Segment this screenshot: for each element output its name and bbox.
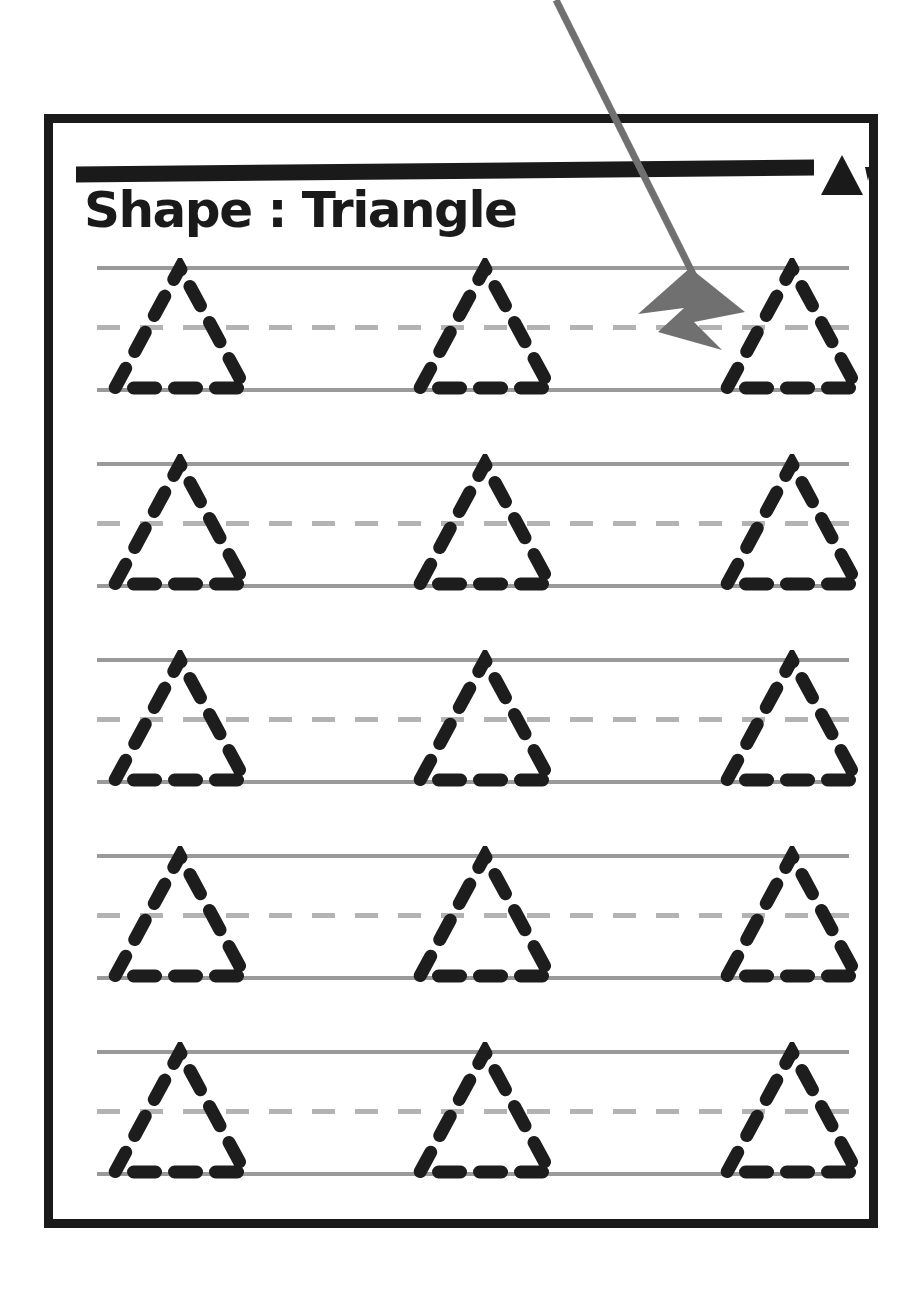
practice-row bbox=[53, 450, 869, 646]
worksheet-page: Shape : Triangle bbox=[44, 114, 878, 1228]
tick-mark-icon bbox=[865, 167, 871, 181]
practice-row bbox=[53, 1038, 869, 1234]
trace-triangle[interactable] bbox=[717, 454, 867, 596]
trace-triangle[interactable] bbox=[410, 846, 560, 988]
trace-triangle[interactable] bbox=[717, 846, 867, 988]
trace-triangle[interactable] bbox=[410, 258, 560, 400]
header-rule-bar bbox=[76, 159, 814, 182]
practice-row bbox=[53, 842, 869, 1038]
trace-triangle[interactable] bbox=[105, 258, 255, 400]
practice-row bbox=[53, 254, 869, 450]
trace-triangle[interactable] bbox=[105, 846, 255, 988]
trace-triangle[interactable] bbox=[105, 1042, 255, 1184]
triangle-glyph bbox=[821, 155, 863, 195]
practice-row bbox=[53, 646, 869, 842]
trace-triangle[interactable] bbox=[717, 1042, 867, 1184]
trace-triangle[interactable] bbox=[105, 650, 255, 792]
trace-triangle[interactable] bbox=[717, 258, 867, 400]
triangle-icon bbox=[821, 151, 865, 195]
trace-triangle[interactable] bbox=[410, 1042, 560, 1184]
trace-triangle[interactable] bbox=[410, 650, 560, 792]
trace-triangle[interactable] bbox=[105, 454, 255, 596]
page-title: Shape : Triangle bbox=[84, 185, 516, 235]
practice-rows-container bbox=[53, 254, 869, 1234]
trace-triangle[interactable] bbox=[410, 454, 560, 596]
trace-triangle[interactable] bbox=[717, 650, 867, 792]
